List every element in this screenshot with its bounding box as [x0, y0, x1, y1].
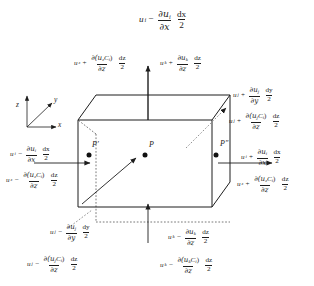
dot-p-prime	[87, 153, 92, 158]
expr-diff-num: dz	[280, 176, 290, 183]
expr-var-sub: k	[173, 235, 175, 240]
expr-op: +	[236, 118, 242, 125]
expr-bottom-left-a: uj − ∂uj ∂y dy 2	[50, 223, 92, 241]
expr-num: ∂(u	[254, 174, 265, 183]
point-label-p: P	[149, 140, 154, 149]
expr-op: +	[240, 92, 246, 99]
expr-num-sub: j	[258, 89, 259, 94]
expr-den: ∂x	[158, 20, 171, 31]
expr-diff-num: dy	[81, 224, 91, 231]
expr-num-close: )	[264, 112, 266, 120]
expr-right-mid-a: ui + ∂ui ∂x dx 2	[241, 148, 283, 166]
expr-op: −	[57, 229, 63, 236]
expr-den: ∂z	[29, 181, 39, 190]
expr-var: u	[10, 151, 14, 158]
point-label-p-prime: P′	[92, 140, 99, 149]
expr-num: ∂u	[158, 8, 169, 19]
expr-op: +	[81, 60, 87, 67]
expr-var-sub: z	[11, 178, 13, 183]
expr-diff-den: 2	[282, 184, 289, 193]
expr-diff-num: dz	[193, 55, 203, 62]
expr-den: ∂z	[97, 64, 107, 73]
expr-num-sub: i	[169, 13, 171, 20]
expr-diff-num: dz	[271, 113, 281, 120]
dot-p-dprime	[214, 153, 219, 158]
expr-den: ∂y	[66, 233, 77, 242]
expr-var: u	[74, 60, 78, 67]
expr-diff-num: dz	[49, 172, 59, 179]
point-label-p-dprime: P″	[220, 139, 228, 148]
expr-num-sub: i	[266, 151, 267, 156]
expr-num-close: )	[273, 175, 275, 183]
expr-var-sub: z	[79, 61, 81, 66]
expr-op: −	[168, 262, 174, 269]
expr-diff-den: 2	[266, 95, 273, 104]
expr-den: ∂z	[260, 185, 270, 194]
expr-diff-num: dz	[117, 55, 127, 62]
expr-den: ∂y	[249, 96, 260, 105]
expr-var: u	[229, 118, 233, 125]
expr-num: ∂u	[67, 222, 75, 231]
expr-num: ∂u	[185, 227, 193, 236]
expr-diff-den: 2	[273, 121, 280, 130]
expr-top-center: ui − ∂ui ∂x dx 2	[139, 9, 189, 31]
expr-var: u	[233, 92, 237, 99]
expr-bottom-left-b: uj − ∂(ujCi) ∂z dz 2	[27, 255, 80, 273]
expr-num: ∂(u	[91, 53, 102, 62]
axis-label-y: y	[54, 95, 57, 104]
expr-den: ∂z	[251, 122, 261, 131]
diagram-vectors	[0, 0, 314, 286]
coordinate-axes	[27, 96, 56, 127]
expr-var: u	[50, 229, 54, 236]
expr-bottom-right-b: uk − ∂(ukCi) ∂z dz 2	[160, 256, 215, 274]
expr-right-mid-b: uz + ∂(uzCi) ∂z dz 2	[237, 175, 291, 193]
expr-var-sub: j	[32, 262, 33, 267]
expr-op: −	[34, 261, 40, 268]
expr-bottom-right-a: uk − ∂uk ∂z dz 2	[168, 228, 212, 246]
expr-var: u	[237, 181, 241, 188]
expr-op: −	[17, 151, 23, 158]
expr-num: ∂u	[177, 53, 185, 62]
expr-diff-den: 2	[119, 63, 126, 72]
sample-points	[87, 153, 219, 158]
expr-diff-den: 2	[205, 265, 212, 274]
expr-num-sub: k	[186, 57, 188, 62]
expr-var-sub: j	[55, 230, 56, 235]
figure-canvas: z y x P′ P P″ ui − ∂ui ∂x dx 2 uz + ∂(uz…	[0, 0, 314, 286]
expr-left-mid-a: ui − ∂ui ∂x dx 2	[10, 145, 52, 163]
expr-diff-den: 2	[194, 63, 201, 72]
expr-diff-den: 2	[83, 232, 90, 241]
expr-var-sub: j	[234, 119, 235, 124]
expr-var: u	[241, 154, 245, 161]
expr-diff-den: 2	[178, 19, 186, 30]
expr-num-close: )	[62, 255, 64, 263]
expr-num-sub: j	[75, 226, 76, 231]
expr-num: ∂(u	[44, 254, 55, 263]
expr-diff-den: 2	[51, 180, 58, 189]
expr-num-close: )	[197, 256, 199, 264]
expr-diff-num: dx	[41, 146, 51, 153]
expr-diff-num: dz	[201, 229, 211, 236]
expr-op: +	[244, 181, 250, 188]
expr-num-sub: k	[194, 231, 196, 236]
expr-right-upper-a: uj + ∂uj ∂y dy 2	[233, 86, 275, 104]
expr-top-right: uk + ∂uk ∂z dz 2	[160, 54, 204, 72]
expr-diff-num: dx	[176, 10, 188, 20]
expr-den: ∂z	[49, 265, 59, 274]
expr-diff-den: 2	[71, 264, 78, 273]
axis-label-x: x	[58, 120, 61, 129]
expr-diff-num: dz	[204, 257, 214, 264]
expr-num-sub: i	[35, 148, 36, 153]
expr-num: ∂(u	[23, 170, 34, 179]
expr-op: −	[13, 177, 19, 184]
expr-op: −	[147, 15, 154, 24]
arrow-y-in	[82, 158, 136, 204]
expr-op: −	[176, 234, 182, 241]
expr-den: ∂z	[177, 64, 187, 73]
expr-var: u	[160, 60, 164, 67]
axis-label-z: z	[16, 100, 19, 109]
expr-op: +	[248, 154, 254, 161]
expr-left-mid-b: uz − ∂(uzCi) ∂z dz 2	[6, 171, 60, 189]
expr-var-sub: z	[242, 182, 244, 187]
expr-den: ∂z	[183, 266, 193, 275]
